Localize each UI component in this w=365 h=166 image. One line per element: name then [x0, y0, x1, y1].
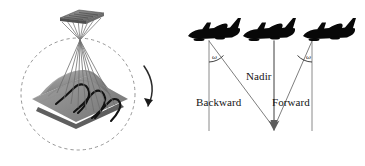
vertical-reference-lines: [209, 40, 312, 131]
aircraft-nadir: [243, 18, 296, 41]
label-nadir: Nadir: [246, 71, 272, 82]
convergence-arrowheads: [269, 120, 280, 131]
label-backward: Backward: [196, 97, 241, 108]
figure-root: Nadir Backward Forward ω ω: [0, 0, 365, 166]
angle-omega-left-symbol: ω: [212, 54, 217, 61]
aircraft-group: [188, 18, 356, 41]
aircraft-backward: [188, 18, 241, 41]
backward-view-line: [209, 41, 274, 128]
right-panel-canvas: [180, 0, 365, 166]
label-forward: Forward: [272, 97, 310, 108]
angle-omega-right-symbol: ω: [306, 54, 311, 61]
left-panel-canvas: [0, 0, 182, 166]
right-panel-scanner-geometry: [180, 0, 365, 166]
left-panel-convergent-acquisition: [0, 0, 182, 166]
rotation-arrow: [144, 66, 153, 106]
converging-view-lines: [209, 41, 312, 128]
terrain-surface: [32, 70, 128, 129]
aircraft-forward: [303, 18, 356, 41]
